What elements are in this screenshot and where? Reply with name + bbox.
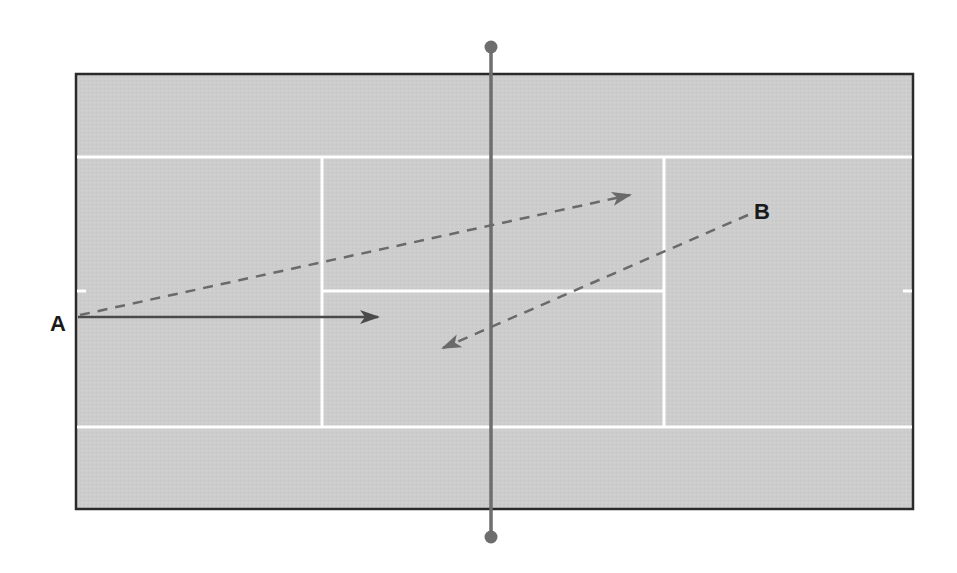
player-label-b: B (754, 199, 770, 225)
player-label-a: A (50, 311, 66, 337)
net-post-top (485, 41, 498, 54)
tennis-court-diagram (0, 0, 957, 573)
net-post-bottom (485, 531, 498, 544)
